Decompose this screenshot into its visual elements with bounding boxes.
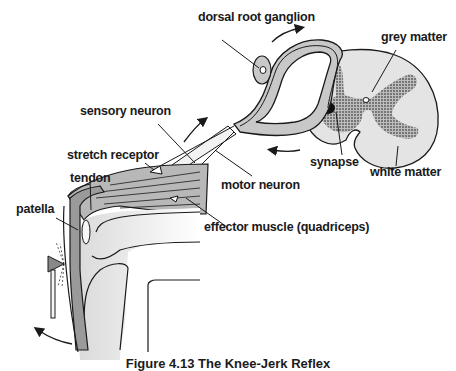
label-patella: patella bbox=[16, 202, 54, 216]
label-grey-matter: grey matter bbox=[381, 30, 447, 44]
label-synapse: synapse bbox=[310, 155, 359, 169]
reflex-hammer bbox=[48, 242, 64, 318]
label-sensory-neuron: sensory neuron bbox=[80, 104, 171, 118]
leg-kick-arrow-icon bbox=[38, 330, 72, 344]
sensory-signal-arrow-icon bbox=[184, 120, 204, 142]
label-effector-muscle: effector muscle (quadriceps) bbox=[204, 220, 369, 234]
label-stretch-receptor: stretch receptor bbox=[67, 148, 159, 162]
label-white-matter: white matter bbox=[370, 165, 441, 179]
label-dorsal-root-ganglion: dorsal root ganglion bbox=[198, 10, 315, 24]
upward-signal-arrow-icon bbox=[272, 28, 300, 42]
figure-caption: Figure 4.13 The Knee-Jerk Reflex bbox=[0, 356, 456, 371]
label-tendon: tendon bbox=[70, 171, 110, 185]
knee-jerk-reflex-diagram: dorsal root ganglion grey matter sensory… bbox=[0, 0, 456, 371]
motor-signal-arrow-icon bbox=[272, 150, 300, 152]
label-motor-neuron: motor neuron bbox=[221, 178, 300, 192]
